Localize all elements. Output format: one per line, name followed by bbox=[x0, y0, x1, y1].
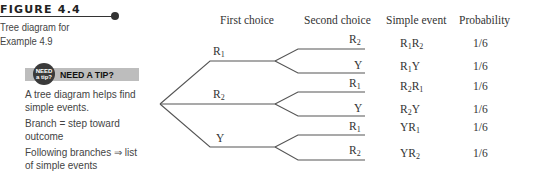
probability-value: 1/6 bbox=[473, 60, 488, 72]
probability-value: 1/6 bbox=[473, 80, 488, 92]
branch-r2-y bbox=[275, 104, 365, 116]
probability-value: 1/6 bbox=[473, 147, 488, 159]
simple-event: YR1 bbox=[400, 121, 420, 135]
first-choice-y: Y bbox=[216, 132, 224, 146]
branch-r1-r2 bbox=[275, 49, 365, 61]
second-choice-label: R1 bbox=[349, 77, 361, 91]
simple-event: YR2 bbox=[400, 147, 420, 161]
probability-value: 1/6 bbox=[473, 37, 488, 49]
branch-r1-y bbox=[275, 61, 365, 73]
second-choice-label: Y bbox=[354, 59, 362, 73]
second-choice-label: Y bbox=[354, 102, 362, 116]
probability-value: 1/6 bbox=[473, 103, 488, 115]
second-choice-label: R1 bbox=[349, 120, 361, 134]
branch-r2-r1 bbox=[275, 92, 365, 104]
first-choice-r2: R2 bbox=[213, 88, 225, 102]
simple-event: R2Y bbox=[400, 103, 420, 117]
second-choice-label: R2 bbox=[349, 144, 361, 158]
simple-event: R1R2 bbox=[400, 37, 423, 51]
tree-diagram bbox=[0, 0, 547, 177]
probability-value: 1/6 bbox=[473, 121, 488, 133]
simple-event: R1Y bbox=[400, 60, 420, 74]
second-choice-label: R2 bbox=[349, 33, 361, 47]
first-choice-r1: R1 bbox=[213, 45, 225, 59]
simple-event: R2R1 bbox=[400, 80, 423, 94]
